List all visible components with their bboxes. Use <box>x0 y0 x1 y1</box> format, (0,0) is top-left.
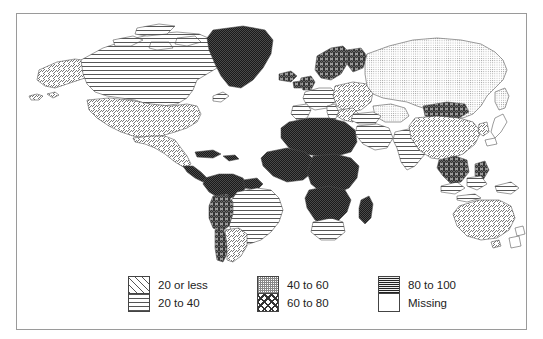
region-tasmania <box>491 240 501 248</box>
swatch-20-or-less <box>129 277 149 294</box>
legend-swatch-stack-1 <box>128 276 150 312</box>
region-indonesia-sumatra <box>441 182 465 194</box>
region-eastern-europe <box>333 82 373 112</box>
region-newfoundland <box>213 92 229 102</box>
swatch-60-to-80 <box>258 294 278 311</box>
region-united-states <box>87 98 201 138</box>
region-new-guinea <box>495 182 519 194</box>
legend-swatch-stack-3 <box>378 276 400 312</box>
legend-group-2: 40 to 60 60 to 80 <box>257 276 329 312</box>
region-new-zealand-north <box>515 226 525 236</box>
legend-label-40-to-60: 40 to 60 <box>287 276 329 294</box>
region-aleutian-islet <box>47 92 59 98</box>
legend-group-1: 20 or less 20 to 40 <box>128 276 208 312</box>
legend-label-missing: Missing <box>408 294 456 312</box>
swatch-80-to-100 <box>379 277 399 294</box>
region-aleutians <box>29 94 43 100</box>
region-central-america <box>183 166 207 182</box>
swatch-missing <box>379 294 399 311</box>
region-mexico <box>133 136 191 168</box>
region-greenland <box>207 26 273 88</box>
region-southeast-asia <box>437 156 469 184</box>
swatch-20-to-40 <box>129 294 149 311</box>
legend-labels-2: 40 to 60 60 to 80 <box>287 276 329 312</box>
region-new-zealand-south <box>509 236 521 248</box>
region-cuba <box>195 150 221 158</box>
region-argentina <box>225 228 247 262</box>
swatch-40-to-60 <box>258 277 278 294</box>
map-legend: 20 or less 20 to 40 40 to 60 60 to 80 80… <box>16 276 527 326</box>
region-japan <box>491 114 507 138</box>
legend-label-20-or-less: 20 or less <box>158 276 208 294</box>
region-madagascar <box>359 196 373 224</box>
region-peru-bolivia <box>209 194 233 232</box>
region-iberia <box>291 104 311 120</box>
region-japan-south <box>485 138 497 146</box>
legend-group-3: 80 to 100 Missing <box>378 276 456 312</box>
region-turkey <box>351 112 381 124</box>
legend-label-20-to-40: 20 to 40 <box>158 294 208 312</box>
map-canvas <box>17 14 526 264</box>
region-finland <box>347 48 367 72</box>
world-map-figure: 20 or less 20 to 40 40 to 60 60 to 80 80… <box>0 0 543 339</box>
region-uk-ireland <box>299 76 315 90</box>
region-middle-east <box>355 124 393 150</box>
legend-labels-3: 80 to 100 Missing <box>408 276 456 312</box>
world-map-svg <box>17 14 526 264</box>
region-iceland <box>279 71 297 82</box>
legend-label-80-to-100: 80 to 100 <box>408 276 456 294</box>
legend-label-60-to-80: 60 to 80 <box>287 294 329 312</box>
region-south-africa <box>311 218 345 240</box>
region-australia <box>453 200 515 240</box>
region-scandinavia <box>315 46 349 80</box>
region-ireland <box>293 81 301 88</box>
legend-labels-1: 20 or less 20 to 40 <box>158 276 208 312</box>
region-kamchatka <box>495 88 509 110</box>
region-hispaniola <box>223 155 239 161</box>
legend-swatch-stack-2 <box>257 276 279 312</box>
